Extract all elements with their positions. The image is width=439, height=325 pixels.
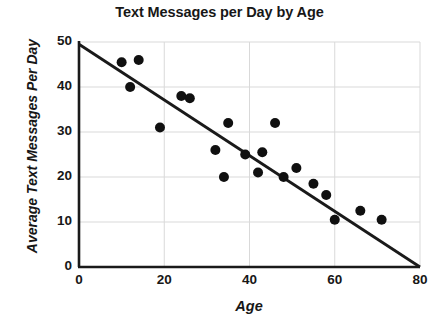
data-point: [155, 123, 165, 133]
data-point: [355, 206, 365, 216]
data-point: [330, 215, 340, 225]
data-point: [253, 168, 263, 178]
data-point: [176, 91, 186, 101]
data-point: [210, 145, 220, 155]
data-point: [125, 82, 135, 92]
data-point: [308, 179, 318, 189]
data-point: [223, 118, 233, 128]
data-point: [291, 163, 301, 173]
x-tick-label: 40: [230, 272, 270, 287]
data-point: [185, 93, 195, 103]
data-point: [219, 172, 229, 182]
data-point: [279, 172, 289, 182]
x-tick-label: 80: [400, 272, 439, 287]
scatter-chart: Text Messages per Day by Age Average Tex…: [0, 0, 439, 325]
data-point: [270, 118, 280, 128]
data-point: [321, 190, 331, 200]
data-point: [257, 147, 267, 157]
data-point: [377, 215, 387, 225]
x-tick-label: 20: [144, 272, 184, 287]
data-point: [134, 55, 144, 65]
data-point: [240, 150, 250, 160]
data-point: [117, 57, 127, 67]
x-tick-label: 0: [59, 272, 99, 287]
data-points: [117, 55, 387, 225]
x-tick-label: 60: [315, 272, 355, 287]
